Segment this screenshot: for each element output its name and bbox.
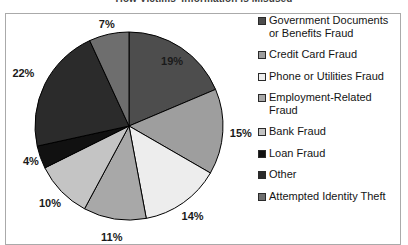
pie-plot-area: 19%15%14%11%10%4%22%7% xyxy=(8,14,256,240)
pie-slice-value-label: 11% xyxy=(101,231,122,243)
pie-slices-group xyxy=(35,32,223,220)
pie-slice-value-label: 7% xyxy=(99,18,115,30)
pie-slice-value-label: 14% xyxy=(182,210,204,222)
legend-item[interactable]: Government Documents or Benefits Fraud xyxy=(258,14,404,39)
legend-item-label: Attempted Identity Theft xyxy=(269,190,386,203)
pie-slice-value-label: 4% xyxy=(23,155,39,167)
legend-color-swatch-icon xyxy=(258,150,266,158)
pie-slice-value-label: 15% xyxy=(230,127,252,139)
legend-item[interactable]: Loan Fraud xyxy=(258,147,404,160)
legend-color-swatch-icon xyxy=(258,73,266,81)
legend-item-label: Phone or Utilities Fraud xyxy=(269,70,384,83)
legend-item-label: Other xyxy=(269,168,297,181)
legend-item-label: Employment-Related Fraud xyxy=(269,91,372,116)
legend-item-label: Loan Fraud xyxy=(269,147,325,160)
legend-color-swatch-icon xyxy=(258,17,266,25)
legend-item[interactable]: Employment-Related Fraud xyxy=(258,91,404,116)
pie-slice-value-label: 10% xyxy=(39,197,61,209)
pie-slice-value-label: 22% xyxy=(12,67,34,79)
legend-color-swatch-icon xyxy=(258,51,266,59)
chart-title: How Victims' Information Is Misused xyxy=(0,0,408,4)
legend-color-swatch-icon xyxy=(258,128,266,136)
pie-slice-value-label: 19% xyxy=(161,55,183,67)
legend-item[interactable]: Credit Card Fraud xyxy=(258,48,404,61)
legend-color-swatch-icon xyxy=(258,193,266,201)
legend-item-label: Credit Card Fraud xyxy=(269,48,357,61)
legend-item-label: Government Documents or Benefits Fraud xyxy=(269,14,388,39)
legend-item[interactable]: Phone or Utilities Fraud xyxy=(258,70,404,83)
legend-item[interactable]: Other xyxy=(258,168,404,181)
legend-color-swatch-icon xyxy=(258,94,266,102)
legend-item-label: Bank Fraud xyxy=(269,125,326,138)
chart-legend: Government Documents or Benefits FraudCr… xyxy=(258,14,404,211)
legend-color-swatch-icon xyxy=(258,171,266,179)
legend-item[interactable]: Bank Fraud xyxy=(258,125,404,138)
legend-item[interactable]: Attempted Identity Theft xyxy=(258,190,404,203)
